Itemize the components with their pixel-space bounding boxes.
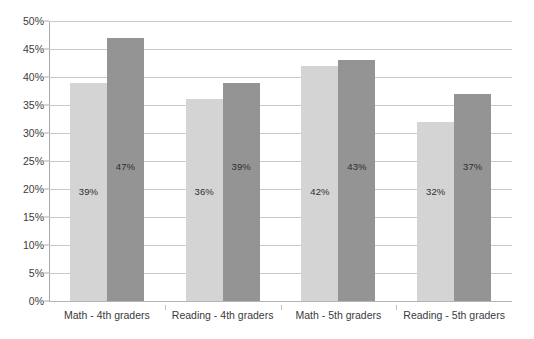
bar-value-label: 47%: [107, 162, 144, 172]
bar: 47%: [107, 38, 144, 301]
bar-value-label: 42%: [301, 187, 338, 197]
x-axis-tick-mark: [165, 305, 166, 310]
y-axis-tick-label: 20%: [4, 184, 44, 195]
bar: 32%: [417, 122, 454, 301]
y-axis-tick-label: 35%: [4, 100, 44, 111]
bar-group: 36%39%: [186, 21, 260, 301]
gridline: [49, 301, 512, 302]
y-axis-tick-label: 30%: [4, 128, 44, 139]
x-axis-category-label: Reading - 4th graders: [165, 309, 281, 321]
x-axis-tick-mark: [396, 305, 397, 310]
bar-group: 42%43%: [301, 21, 375, 301]
bar: 36%: [186, 99, 223, 301]
x-axis-category-label: Math - 4th graders: [49, 309, 165, 321]
x-axis-categories: Math - 4th gradersReading - 4th gradersM…: [49, 305, 512, 329]
y-axis-tick-label: 15%: [4, 212, 44, 223]
bar-group: 32%37%: [417, 21, 491, 301]
plot-area: 39%47%36%39%42%43%32%37%: [49, 21, 512, 301]
bar: 43%: [338, 60, 375, 301]
bar: 37%: [454, 94, 491, 301]
bars-layer: 39%47%36%39%42%43%32%37%: [49, 21, 512, 301]
bar-group: 39%47%: [70, 21, 144, 301]
bar: 39%: [70, 83, 107, 301]
y-axis: 0%5%10%15%20%25%30%35%40%45%50%: [0, 21, 44, 301]
x-axis-category-label: Math - 5th graders: [281, 309, 397, 321]
bar: 42%: [301, 66, 338, 301]
bar-value-label: 37%: [454, 162, 491, 172]
y-axis-tick-label: 45%: [4, 44, 44, 55]
bar-value-label: 39%: [223, 162, 260, 172]
y-axis-tick-label: 40%: [4, 72, 44, 83]
y-axis-tick-label: 5%: [4, 268, 44, 279]
x-axis-category-label: Reading - 5th graders: [396, 309, 512, 321]
y-axis-tick-label: 0%: [4, 296, 44, 307]
bar-value-label: 43%: [338, 162, 375, 172]
bar-value-label: 36%: [186, 187, 223, 197]
y-axis-tick-label: 50%: [4, 16, 44, 27]
bar-chart: 0%5%10%15%20%25%30%35%40%45%50% 39%47%36…: [0, 0, 534, 339]
bar: 39%: [223, 83, 260, 301]
bar-value-label: 39%: [70, 187, 107, 197]
bar-value-label: 32%: [417, 187, 454, 197]
x-axis-tick-mark: [281, 305, 282, 310]
y-axis-tick-label: 10%: [4, 240, 44, 251]
y-axis-tick-label: 25%: [4, 156, 44, 167]
